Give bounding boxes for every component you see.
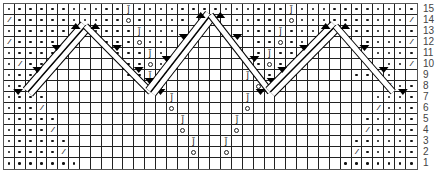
purl-dot-icon (4, 4, 15, 15)
knit-cell (265, 114, 276, 125)
knit-cell (319, 158, 330, 169)
knit-cell (102, 158, 113, 169)
purl-dot-icon (37, 59, 48, 70)
knit-cell (265, 81, 276, 92)
knit-cell (123, 147, 134, 158)
purl-dot-icon (275, 4, 286, 15)
knit-cell (243, 59, 254, 70)
purl-dot-icon (145, 15, 156, 26)
purl-dot-icon (362, 15, 373, 26)
purl-dot-icon (4, 48, 15, 59)
purl-dot-icon (362, 37, 373, 48)
twisted-stitch-icon: ǰ (232, 114, 243, 125)
purl-dot-icon (362, 26, 373, 37)
purl-dot-icon (221, 4, 232, 15)
purl-dot-icon (384, 125, 395, 136)
purl-dot-icon (145, 26, 156, 37)
purl-dot-icon (286, 37, 297, 48)
purl-dot-icon (319, 26, 330, 37)
purl-dot-icon (341, 4, 352, 15)
knit-cell (319, 114, 330, 125)
knit-cell (221, 125, 232, 136)
knit-cell (210, 92, 221, 103)
row-number-label: 11 (423, 47, 437, 58)
knit-cell (178, 70, 189, 81)
knit-cell (199, 48, 210, 59)
knit-cell (178, 37, 189, 48)
purl-dot-icon (113, 15, 124, 26)
row-number-label: 3 (423, 135, 437, 146)
purl-dot-icon (395, 26, 406, 37)
purl-dot-icon (26, 37, 37, 48)
knit-cell (330, 26, 341, 37)
knit-cell (221, 15, 232, 26)
knit-cell (58, 103, 69, 114)
knit-cell (58, 92, 69, 103)
knit-cell (47, 92, 58, 103)
knit-cell (362, 103, 373, 114)
knit-cell (178, 92, 189, 103)
knit-cell (330, 48, 341, 59)
knit-cell (308, 70, 319, 81)
knit-cell (286, 92, 297, 103)
knit-cell (265, 125, 276, 136)
knit-cell (69, 125, 80, 136)
purl-dot-icon (395, 114, 406, 125)
knit-cell (189, 81, 200, 92)
chart-grid: ǰǰ⁄⁄ǰǰ⁄⁄ǰǰ⁄⁄ǰǰ⁄⁄ǰǰ⁄⁄ǰǰ⁄⁄ǰǰ⁄⁄ (4, 4, 417, 169)
knit-cell (113, 147, 124, 158)
knit-cell (352, 114, 363, 125)
decrease-icon: ⁄ (37, 103, 48, 114)
knit-cell (232, 26, 243, 37)
knit-cell (341, 81, 352, 92)
purl-dot-icon (58, 4, 69, 15)
purl-dot-icon (395, 158, 406, 169)
knit-cell (113, 114, 124, 125)
knit-cell (145, 92, 156, 103)
purl-dot-icon (384, 26, 395, 37)
knit-cell (134, 103, 145, 114)
decrease-icon: ⁄ (406, 15, 417, 26)
purl-dot-icon (373, 147, 384, 158)
knit-cell (156, 158, 167, 169)
purl-dot-icon (26, 147, 37, 158)
purl-dot-icon (113, 37, 124, 48)
yarn-over-circle-icon (156, 81, 167, 92)
purl-dot-icon (254, 37, 265, 48)
knit-cell (341, 136, 352, 147)
knit-cell (308, 114, 319, 125)
knit-cell (210, 147, 221, 158)
purl-dot-icon (243, 15, 254, 26)
knit-cell (123, 103, 134, 114)
purl-dot-icon (156, 4, 167, 15)
purl-dot-icon (319, 4, 330, 15)
knit-cell (330, 125, 341, 136)
knit-cell (319, 136, 330, 147)
purl-dot-icon (145, 37, 156, 48)
knit-cell (254, 125, 265, 136)
knit-cell (210, 114, 221, 125)
purl-dot-icon (362, 70, 373, 81)
purl-dot-icon (373, 70, 384, 81)
knit-cell (189, 103, 200, 114)
knit-cell (156, 70, 167, 81)
knit-cell (210, 26, 221, 37)
knit-cell (297, 158, 308, 169)
knit-cell (330, 103, 341, 114)
knit-cell (178, 103, 189, 114)
yarn-over-circle-icon (189, 147, 200, 158)
knit-cell (221, 92, 232, 103)
knit-cell (352, 92, 363, 103)
knit-cell (362, 92, 373, 103)
purl-dot-icon (362, 4, 373, 15)
purl-dot-icon (15, 70, 26, 81)
knit-cell (308, 103, 319, 114)
knit-cell (178, 81, 189, 92)
knit-cell (145, 125, 156, 136)
knit-cell (102, 147, 113, 158)
purl-dot-icon (406, 158, 417, 169)
knit-cell (210, 136, 221, 147)
knit-cell (297, 103, 308, 114)
purl-dot-icon (134, 70, 145, 81)
knit-cell (69, 81, 80, 92)
